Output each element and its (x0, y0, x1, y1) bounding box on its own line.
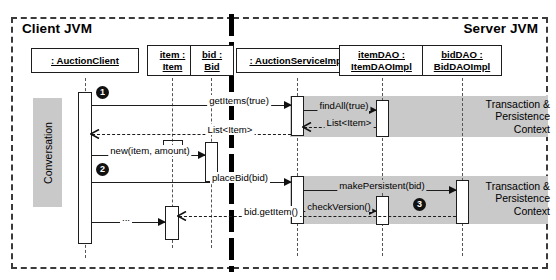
message-get-items-arrowhead (284, 101, 292, 109)
message-bid-get-item-line (179, 216, 456, 217)
step-marker-2: 2 (96, 163, 109, 176)
message-ellipsis-arrowhead (158, 218, 166, 226)
lifeline-head-bid[interactable]: bid : Bid (190, 45, 234, 76)
message-bid-get-item-arrowhead (177, 211, 187, 221)
activation-item-dao-check-version (376, 196, 389, 225)
lifeline-head-bid-dao-line2: BidDAOImpl (434, 61, 491, 72)
message-new-bid-label: new(item, amount) (108, 145, 191, 156)
message-return-list-dao-arrowhead (302, 122, 312, 132)
activation-item-dao-find-all (376, 100, 389, 137)
lifeline-head-bid-dao-line1: bidDAO : (441, 49, 483, 60)
message-return-list-line (92, 134, 291, 135)
message-new-bid-arrowhead (198, 151, 206, 159)
activation-auction-client (78, 92, 92, 244)
message-place-bid-label: placeBid(bid) (210, 172, 270, 183)
lifeline-head-item-dao-line2: ItemDAOImpl (351, 61, 412, 72)
message-place-bid-arrowhead (284, 178, 292, 186)
message-bid-get-item-label: bid.getItem() (242, 206, 300, 217)
activation-bid-dao-make-persistent (456, 180, 469, 224)
transaction-context-label-1: Transaction & Persistence Context (458, 98, 550, 135)
lifeline-head-item-dao-line1: itemDAO : (358, 49, 405, 60)
step-marker-1: 1 (96, 86, 109, 99)
lifeline-bid-dao (462, 78, 463, 256)
sequence-diagram: Client JVM Server JVM Conversation Trans… (0, 0, 556, 280)
message-make-persistent-arrowhead (449, 186, 457, 194)
message-return-list-dao-label: List<Item> (325, 117, 374, 128)
partition-label-client-jvm: Client JVM (22, 21, 92, 36)
lifeline-head-bid-line2: Bid (204, 61, 219, 72)
message-find-all-label: findAll(true) (317, 100, 370, 111)
lifeline-head-bid-dao[interactable]: bidDAO : BidDAOImpl (422, 45, 502, 76)
message-return-list-label: List<Item> (206, 124, 255, 135)
message-make-persistent-label: makePersistent(bid) (337, 180, 426, 191)
message-return-list-arrowhead (90, 129, 100, 139)
conversation-band-label: Conversation (33, 98, 62, 207)
lifeline-head-item-dao[interactable]: itemDAO : ItemDAOImpl (339, 45, 424, 76)
lifeline-head-auction-service-impl-line1: : AuctionServiceImpl (249, 55, 344, 66)
step-marker-3: 3 (413, 198, 426, 211)
transaction-context-label-2: Transaction & Persistence Context (458, 180, 550, 217)
lifeline-head-item-line1: item : (160, 49, 186, 60)
lifeline-head-bid-line1: bid : (202, 49, 222, 60)
conversation-band-text: Conversation (42, 122, 54, 184)
message-get-items-label: getItems(true) (207, 95, 271, 106)
message-ellipsis-label: ... (120, 212, 132, 223)
lifeline-head-item-line2: Item (163, 61, 183, 72)
message-check-version-label: checkVersion() (305, 201, 372, 212)
lifeline-head-auction-client[interactable]: : AuctionClient (31, 48, 139, 73)
lifeline-head-auction-client-line1: : AuctionClient (51, 55, 119, 66)
partition-label-server-jvm: Server JVM (463, 21, 538, 36)
